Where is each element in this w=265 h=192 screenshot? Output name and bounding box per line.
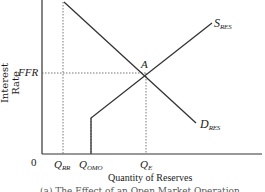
x-axis-label: Quantity of Reserves [108, 172, 192, 183]
q-omo-tick-label: QOMO [79, 158, 102, 172]
q-e-tick-label: QE [140, 158, 152, 172]
demand-label-sub: RES [209, 124, 220, 132]
demand-curve [64, 2, 196, 123]
q-rr-main: Q [54, 158, 62, 170]
q-omo-sub: OMO [87, 164, 102, 172]
q-rr-sub: RR [62, 164, 70, 172]
q-rr-tick-label: QRR [54, 158, 70, 172]
supply-label-sub: RES [220, 23, 231, 31]
demand-label-main: D [200, 117, 209, 131]
figure-caption: (a) The Effect of an Open Market Operati… [40, 186, 240, 192]
y-axis-label: Interest Rate [0, 53, 21, 113]
ffr-tick-label: FFR [18, 66, 38, 78]
q-omo-main: Q [79, 158, 87, 170]
demand-label: DRES [200, 117, 220, 132]
supply-label: SRES [214, 16, 231, 31]
q-e-sub: E [148, 164, 152, 172]
q-e-main: Q [140, 158, 148, 170]
point-a-label: A [141, 58, 148, 70]
origin-label: 0 [31, 156, 37, 168]
